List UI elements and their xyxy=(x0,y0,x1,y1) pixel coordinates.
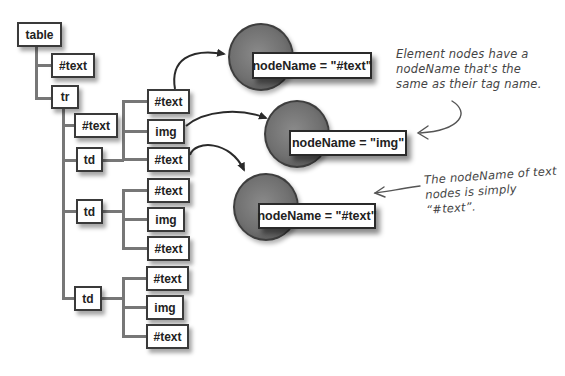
nodename-label: nodeName = "img" xyxy=(289,130,407,156)
dom-tree-diagram: table #text tr #text td td td #text img … xyxy=(0,0,565,376)
annotation-text-nodes: The nodeName of text nodes is simply “#t… xyxy=(424,163,565,218)
nodename-label: nodeName = "#text" xyxy=(258,203,376,229)
nodename-label: nodeName = "#text" xyxy=(252,52,372,79)
annotation-line: same as their tag name. xyxy=(396,77,542,92)
annotation-element-nodes: Element nodes have a nodeName that's the… xyxy=(396,47,542,92)
annotation-line: Element nodes have a xyxy=(396,47,542,62)
annotation-line: nodeName that's the xyxy=(396,62,542,77)
